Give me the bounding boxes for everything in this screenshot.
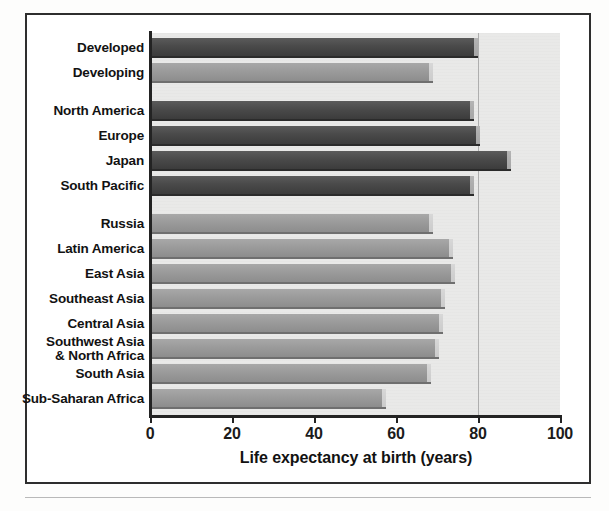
category-label: Central Asia [20,317,144,331]
bar-row [150,126,560,146]
x-tick-label-20: 20 [223,425,240,443]
category-label: Latin America [20,242,144,256]
bar-row [150,364,560,384]
x-tick-label-0: 0 [146,425,155,443]
bar-end-highlight [470,101,474,119]
category-label: Southeast Asia [20,292,144,306]
bar-europe [150,126,480,146]
plot-area [150,33,560,415]
x-axis-line [149,415,561,418]
category-label: Sub-Saharan Africa [20,392,144,406]
bar-row [150,151,560,171]
bar-end-highlight [449,239,453,257]
x-axis-title: Life expectancy at birth (years) [150,449,562,467]
bar-row [150,239,560,259]
bar-row [150,389,560,409]
bar-south-asia [150,364,431,384]
x-tick-0 [150,415,152,423]
bar-row [150,339,560,359]
category-label: Southwest Asia & North Africa [20,335,144,363]
bar-southwest-asia-and-north-africa [150,339,439,359]
bar-north-america [150,101,474,121]
bar-japan [150,151,511,171]
x-tick-label-100: 100 [547,425,573,443]
figure-root: DevelopedDevelopingNorth AmericaEuropeJa… [0,0,609,511]
x-tick-80 [478,415,480,423]
x-tick-100 [560,415,562,423]
bar-row [150,101,560,121]
x-tick-label-80: 80 [469,425,486,443]
bar-end-highlight [441,289,445,307]
bar-row [150,176,560,196]
category-label: East Asia [20,267,144,281]
x-tick-20 [232,415,234,423]
bar-southeast-asia [150,289,445,309]
category-label: North America [20,104,144,118]
bar-end-highlight [435,339,439,357]
bar-row [150,314,560,334]
bar-end-highlight [429,63,433,81]
bar-end-highlight [439,314,443,332]
bar-end-highlight [470,176,474,194]
category-label: Europe [20,129,144,143]
category-label: South Pacific [20,179,144,193]
bar-developing [150,63,433,83]
bar-end-highlight [474,38,478,56]
x-tick-label-40: 40 [305,425,322,443]
x-tick-label-60: 60 [387,425,404,443]
x-tick-40 [314,415,316,423]
bar-row [150,63,560,83]
category-label: South Asia [20,367,144,381]
bar-sub-saharan-africa [150,389,386,409]
bar-south-pacific [150,176,474,196]
bar-end-highlight [429,214,433,232]
category-label: Developing [20,66,144,80]
bar-east-asia [150,264,455,284]
bar-end-highlight [476,126,480,144]
bar-row [150,289,560,309]
bar-latin-america [150,239,453,259]
bar-row [150,264,560,284]
category-label: Developed [20,41,144,55]
caption-divider-rule [25,497,591,498]
bar-russia [150,214,433,234]
bar-developed [150,38,478,58]
bar-row [150,38,560,58]
bar-end-highlight [451,264,455,282]
category-label: Japan [20,154,144,168]
bar-central-asia [150,314,443,334]
y-axis-line [149,31,152,417]
bar-end-highlight [427,364,431,382]
bar-row [150,214,560,234]
bar-end-highlight [382,389,386,407]
bar-end-highlight [507,151,511,169]
category-label: Russia [20,217,144,231]
x-tick-60 [396,415,398,423]
